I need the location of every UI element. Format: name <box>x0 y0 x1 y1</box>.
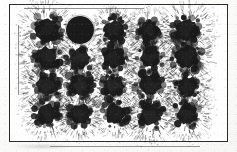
blot-speck <box>162 71 164 73</box>
blot-speck <box>58 44 59 45</box>
blot-clump <box>73 117 79 123</box>
blot-speck <box>157 118 158 119</box>
blot-bristle <box>37 63 38 64</box>
blot-speck <box>187 96 188 97</box>
blot-speck <box>199 92 201 94</box>
blot-bristle <box>36 10 37 12</box>
blot-speck <box>32 139 33 140</box>
blot-speck <box>208 108 209 109</box>
blot-bristle <box>53 71 56 73</box>
blot-bristle <box>95 38 97 40</box>
blot-speck <box>15 47 17 49</box>
blot-speck <box>156 49 157 50</box>
blot-bristle <box>97 119 100 120</box>
blot-bristle <box>172 71 173 72</box>
blot-speck <box>37 67 38 68</box>
blot-speck <box>130 47 131 48</box>
blot-speck <box>212 40 213 41</box>
blot-speck <box>124 23 125 24</box>
blot-bristle <box>203 44 204 45</box>
blot-speck <box>185 59 186 60</box>
blot-speck <box>68 99 70 101</box>
blot-bristle <box>26 125 27 126</box>
blot-speck <box>146 60 147 61</box>
blot-bristle <box>132 133 133 134</box>
blot-bristle <box>164 19 168 21</box>
blot-bristle <box>97 74 98 75</box>
blot-bristle <box>171 35 172 36</box>
blot-speck <box>201 14 202 15</box>
blot-grid <box>9 4 228 142</box>
blot-bristle <box>176 135 178 139</box>
blot-speck <box>140 141 141 142</box>
blot-bristle <box>141 129 143 132</box>
blot-bristle <box>126 110 130 111</box>
blot-speck <box>144 59 146 61</box>
blot-clump <box>138 70 146 78</box>
blot-speck <box>25 76 27 78</box>
blot-speck <box>108 58 109 59</box>
blot-speck <box>25 129 27 131</box>
blot-bristle <box>73 42 74 43</box>
blot-speck <box>61 133 63 135</box>
blot-speck <box>213 106 214 107</box>
blot-speck <box>171 61 172 62</box>
blot-bristle <box>180 70 181 72</box>
blot-bristle <box>75 32 76 36</box>
blot-speck <box>208 128 210 130</box>
blot-bristle <box>199 9 200 10</box>
blot-speck <box>51 74 52 75</box>
blot-speck <box>78 85 79 86</box>
blot-bristle <box>170 43 171 44</box>
blot-bristle <box>135 68 136 69</box>
blot-clump <box>175 113 179 117</box>
blot-bristle <box>154 95 155 97</box>
blot-bristle <box>139 129 140 130</box>
blot-speck <box>38 142 39 143</box>
blot-speck <box>168 65 169 66</box>
blot-bristle <box>96 102 97 103</box>
blot-bristle <box>206 102 208 103</box>
blot-bristle <box>91 65 94 68</box>
blot-bristle <box>90 69 92 70</box>
blot-speck <box>124 77 125 78</box>
blot-bristle <box>207 120 210 121</box>
blot-bristle <box>126 125 129 126</box>
blot-speck <box>36 126 37 127</box>
blot-bristle <box>104 131 105 132</box>
blot-speck <box>147 33 148 34</box>
blot-bristle <box>22 22 24 23</box>
blot-bristle <box>87 79 91 80</box>
blot-bristle <box>94 104 97 106</box>
blot-speck <box>97 106 98 107</box>
blot-bristle <box>73 95 74 98</box>
blot-bristle <box>32 76 34 77</box>
blot-speck <box>95 129 96 130</box>
blot-bristle <box>130 69 131 70</box>
blot-bristle <box>31 7 33 9</box>
blot-bristle <box>31 101 32 102</box>
blot-speck <box>172 26 174 28</box>
blot-bristle <box>191 98 192 100</box>
blot-clump <box>65 114 70 119</box>
blot-bristle <box>105 128 106 130</box>
blot-speck <box>130 91 131 92</box>
blot-bristle <box>164 11 166 13</box>
blot-bristle <box>137 41 139 43</box>
blot-speck <box>125 21 126 22</box>
blot-clump <box>110 78 113 81</box>
blot-bristle <box>163 47 166 48</box>
blot-bristle <box>62 105 66 107</box>
blot-bristle <box>22 71 25 73</box>
blot-speck <box>74 89 76 91</box>
blot-speck <box>19 103 20 104</box>
blot-speck <box>65 130 67 132</box>
blot-speck <box>196 3 197 4</box>
blot-speck <box>113 70 115 72</box>
blot-bristle <box>29 98 32 101</box>
blot-speck <box>170 47 171 48</box>
blot-bristle <box>200 112 205 113</box>
blot-clump <box>188 16 191 19</box>
blot-bristle <box>136 63 138 66</box>
blot-speck <box>17 113 19 115</box>
